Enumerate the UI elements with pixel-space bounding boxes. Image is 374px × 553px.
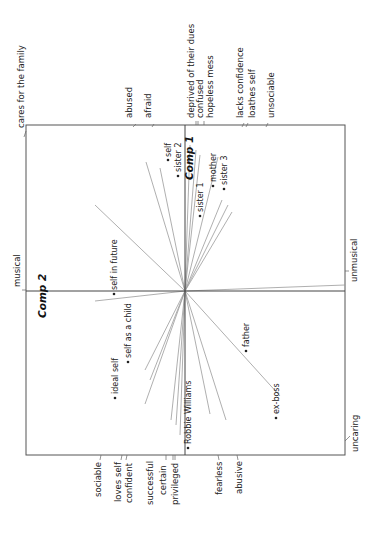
label-loathes-self: loathes self bbox=[247, 68, 257, 118]
label-abusive: abusive bbox=[234, 461, 244, 494]
bottom-construct-labels: sociable loves self confident successful… bbox=[93, 461, 244, 505]
label-cares-for-the-family: cares for the family bbox=[16, 45, 26, 128]
element-sister-2: sister 2 bbox=[174, 142, 183, 172]
element-ex-boss: ex-boss bbox=[272, 383, 281, 414]
label-lacks-confidence: lacks confidence bbox=[235, 47, 245, 118]
comp1-label: Comp 1 bbox=[183, 136, 195, 180]
element-points: self sister 2 sister 1 mother sister 3 s… bbox=[110, 142, 281, 449]
label-abused: abused bbox=[124, 87, 134, 118]
top-construct-labels: cares for the family abused afraid depri… bbox=[16, 23, 276, 128]
construct-vectors bbox=[95, 145, 345, 435]
element-father: father bbox=[242, 322, 251, 347]
element-mother: mother bbox=[209, 152, 218, 182]
label-musical: musical bbox=[12, 254, 22, 287]
label-hopeless-mess: hopeless mess bbox=[205, 55, 215, 118]
label-sociable: sociable bbox=[93, 462, 103, 497]
label-certain: certain bbox=[158, 465, 168, 495]
label-uncaring: uncaring bbox=[350, 415, 360, 452]
comp2-label: Comp 2 bbox=[36, 274, 48, 318]
label-unsociable: unsociable bbox=[266, 72, 276, 118]
label-confident: confident bbox=[124, 462, 134, 503]
label-fearless: fearless bbox=[214, 461, 224, 495]
biplot-chart: Comp 1 Comp 2 cares for the family abuse… bbox=[0, 0, 374, 553]
label-successful: successful bbox=[145, 461, 155, 505]
label-privileged: privileged bbox=[170, 463, 180, 505]
label-unmusical: unmusical bbox=[349, 239, 359, 282]
element-self-as-a-child: self as a child bbox=[124, 303, 133, 358]
label-loves-self: loves self bbox=[113, 461, 123, 502]
element-sister-1: sister 1 bbox=[196, 182, 205, 212]
label-afraid: afraid bbox=[143, 93, 153, 118]
element-sister-3: sister 3 bbox=[220, 155, 229, 185]
element-self-in-future: self in future bbox=[110, 239, 119, 290]
element-robbie-williams: Robbie Williams bbox=[184, 381, 193, 444]
element-ideal-self: ideal self bbox=[111, 358, 120, 394]
element-self: self bbox=[164, 143, 173, 157]
label-confused: confused bbox=[195, 79, 205, 118]
